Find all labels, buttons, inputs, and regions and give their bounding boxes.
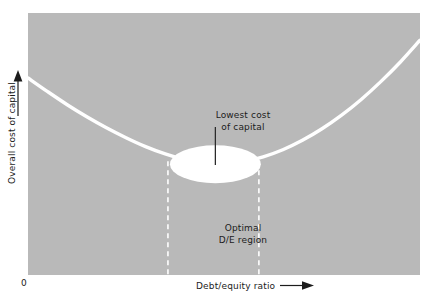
lowest-cost-annotation: Lowest cost of capital xyxy=(183,109,303,133)
lowest-cost-annotation-line1: Lowest cost xyxy=(183,109,303,121)
cost-of-capital-chart: Lowest cost of capital Optimal D/E regio… xyxy=(0,0,437,305)
origin-label: 0 xyxy=(21,278,27,288)
optimal-region-annotation-line2: D/E region xyxy=(183,234,303,246)
x-axis-label-group: Debt/equity ratio xyxy=(196,280,314,291)
optimal-region-annotation-line1: Optimal xyxy=(183,222,303,234)
x-axis-label: Debt/equity ratio xyxy=(196,281,275,291)
optimal-region-annotation: Optimal D/E region xyxy=(183,222,303,246)
plot-area: Lowest cost of capital Optimal D/E regio… xyxy=(28,13,420,275)
lowest-cost-annotation-line2: of capital xyxy=(183,121,303,133)
x-axis-arrow-icon xyxy=(280,280,314,291)
y-axis-label: Overall cost of capital xyxy=(7,58,17,208)
